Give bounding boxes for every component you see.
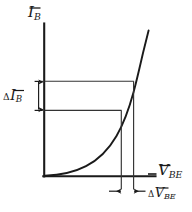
delta-symbol: Δ <box>148 189 154 199</box>
y-axis-label: IB <box>28 5 41 21</box>
x-axis-subscript: BE <box>169 169 182 180</box>
delta-vbe-subscript: BE <box>164 192 175 201</box>
delta-vbe-symbol: V <box>155 185 164 200</box>
delta-ib-label: ΔIB <box>3 88 22 104</box>
delta-vbe-label: ΔVBE <box>148 186 176 201</box>
x-axis-symbol: V <box>158 161 169 179</box>
delta-ib-dimension <box>35 81 43 110</box>
x-axis-label: VBE <box>158 163 182 179</box>
delta-ib-subscript: B <box>16 94 22 104</box>
y-axis-subscript: B <box>34 11 41 22</box>
transistor-input-characteristic-figure: IB VBE ΔIB ΔVBE <box>0 0 192 212</box>
delta-symbol: Δ <box>3 91 10 102</box>
figure-canvas <box>0 0 192 212</box>
